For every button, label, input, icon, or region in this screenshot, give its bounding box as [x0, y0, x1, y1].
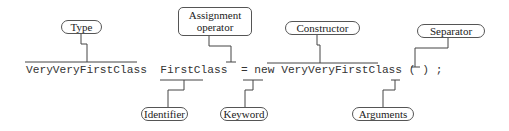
code-assign: =: [241, 64, 248, 76]
keyword-label: Keyword: [220, 107, 268, 121]
type-label: Type: [61, 20, 102, 34]
code-line: VeryVeryFirstClass FirstClass = new Very…: [26, 64, 442, 76]
arguments-label: Arguments: [352, 107, 414, 121]
code-separator: ;: [436, 64, 443, 76]
separator-label: Separator: [417, 24, 485, 38]
assignment-operator-label: Assignment operator: [178, 7, 252, 36]
code-keyword: new: [254, 64, 274, 76]
code-identifier: FirstClass: [160, 64, 227, 76]
identifier-label: Identifier: [141, 107, 188, 121]
constructor-label: Constructor: [285, 21, 360, 35]
assignment-label-line2: operator: [179, 21, 251, 33]
assignment-label-line1: Assignment: [179, 9, 251, 21]
code-args: ( ): [409, 64, 429, 76]
code-type: VeryVeryFirstClass: [26, 64, 147, 76]
code-constructor: VeryVeryFirstClass: [281, 64, 402, 76]
code-annotation-diagram: VeryVeryFirstClass FirstClass = new Very…: [0, 0, 509, 131]
